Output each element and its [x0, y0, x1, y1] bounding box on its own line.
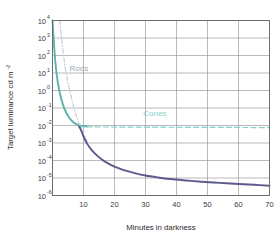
svg-text:2: 2: [47, 49, 50, 55]
svg-text:10: 10: [38, 87, 46, 96]
svg-text:-5: -5: [47, 172, 52, 178]
series-annotation-label: Rods: [70, 64, 89, 73]
svg-text:10: 10: [38, 34, 46, 43]
svg-text:10: 10: [38, 192, 46, 201]
svg-text:-1: -1: [47, 102, 52, 108]
y-axis-title-exponent: -2: [5, 65, 11, 70]
svg-text:-3: -3: [47, 137, 52, 143]
x-tick-label: 70: [265, 200, 273, 209]
x-axis-title-text: Minutes in darkness: [126, 223, 195, 232]
svg-text:10: 10: [38, 157, 46, 166]
svg-text:10: 10: [38, 69, 46, 78]
svg-text:10: 10: [38, 104, 46, 113]
y-axis-title-text: Target luminance cd m: [6, 69, 15, 150]
series-annotation-label: Cones: [143, 109, 166, 118]
svg-text:1: 1: [47, 67, 50, 73]
x-tick-label: 10: [79, 200, 87, 209]
svg-text:4: 4: [47, 14, 50, 20]
chart-canvas: 10410310210110010-110-210-310-410-510-6 …: [0, 0, 277, 241]
y-axis-title: Target luminance cd m -2: [5, 65, 15, 150]
svg-text:0: 0: [47, 84, 50, 90]
svg-text:10: 10: [38, 52, 46, 61]
svg-text:-2: -2: [47, 119, 52, 125]
x-tick-label: 40: [172, 200, 180, 209]
svg-text:-4: -4: [47, 154, 52, 160]
x-tick-label: 60: [234, 200, 242, 209]
x-tick-label: 20: [110, 200, 118, 209]
x-tick-label: 30: [141, 200, 149, 209]
svg-text:10: 10: [38, 17, 46, 26]
svg-text:10: 10: [38, 122, 46, 131]
svg-text:10: 10: [38, 139, 46, 148]
svg-text:Target luminance cd m -2: Target luminance cd m -2: [5, 65, 15, 150]
x-tick-label: 50: [203, 200, 211, 209]
svg-text:3: 3: [47, 32, 50, 38]
svg-text:10: 10: [38, 174, 46, 183]
svg-text:-6: -6: [47, 189, 52, 195]
dark-adaptation-chart: 10410310210110010-110-210-310-410-510-6 …: [0, 0, 277, 241]
